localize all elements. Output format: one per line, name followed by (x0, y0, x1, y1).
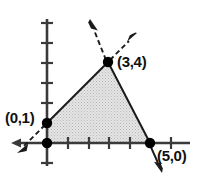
shaded-region (47, 62, 150, 143)
point-label-3-4: (3,4) (117, 54, 146, 69)
point-label-0-1: (0,1) (5, 110, 34, 125)
arrow-up-right-head (127, 32, 137, 41)
point-3-4 (103, 57, 113, 67)
point-origin (42, 138, 52, 148)
arrow-up-left-shaft (94, 30, 106, 60)
point-label-5-0: (5,0) (157, 148, 186, 163)
x-axis-left-arrowhead (11, 138, 21, 147)
point-5-0 (145, 138, 155, 148)
point-0-1 (42, 118, 52, 128)
geometry-figure: (0,1) (3,4) (5,0) (0, 0, 198, 185)
arrow-up-left-head (88, 19, 98, 31)
